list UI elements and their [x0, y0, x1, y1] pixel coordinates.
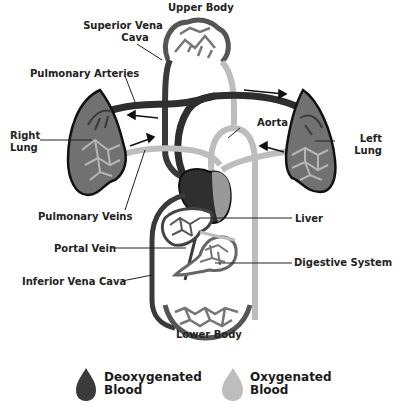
label-lower-body: Lower Body — [176, 329, 242, 341]
label-left-lung-line2: Lung — [340, 145, 382, 157]
label-left-lung-line1: Left — [340, 133, 382, 145]
label-right-lung-line2: Lung — [10, 142, 40, 154]
label-pulmonary-arteries: Pulmonary Arteries — [30, 68, 139, 80]
label-upper-body: Upper Body — [168, 2, 234, 14]
label-liver: Liver — [295, 213, 323, 225]
liver-organ — [162, 209, 212, 246]
label-pulmonary-veins: Pulmonary Veins — [38, 211, 132, 223]
label-right-lung-line1: Right — [10, 130, 40, 142]
label-superior-vena-cava-line1: Superior Vena — [78, 20, 168, 32]
legend-deoxygenated-line2: Blood — [104, 384, 202, 397]
label-superior-vena-cava-line2: Cava — [78, 32, 168, 44]
label-aorta: Aorta — [257, 117, 288, 129]
oxygenated-drop-icon — [222, 368, 243, 401]
legend-oxygenated-line2: Blood — [250, 384, 332, 397]
legend-oxygenated: Oxygenated Blood — [250, 371, 332, 397]
label-inferior-vena-cava: Inferior Vena Cava — [22, 276, 126, 288]
deoxygenated-drop-icon — [76, 368, 96, 401]
label-right-lung: Right Lung — [10, 130, 40, 154]
label-superior-vena-cava: Superior Vena Cava — [78, 20, 168, 44]
legend-deoxygenated: Deoxygenated Blood — [104, 371, 202, 397]
label-digestive-system: Digestive System — [294, 257, 392, 269]
circulatory-diagram — [0, 0, 403, 413]
label-portal-vein: Portal Vein — [54, 243, 116, 255]
label-left-lung: Left Lung — [340, 133, 382, 157]
upper-body-capillaries — [165, 20, 228, 62]
